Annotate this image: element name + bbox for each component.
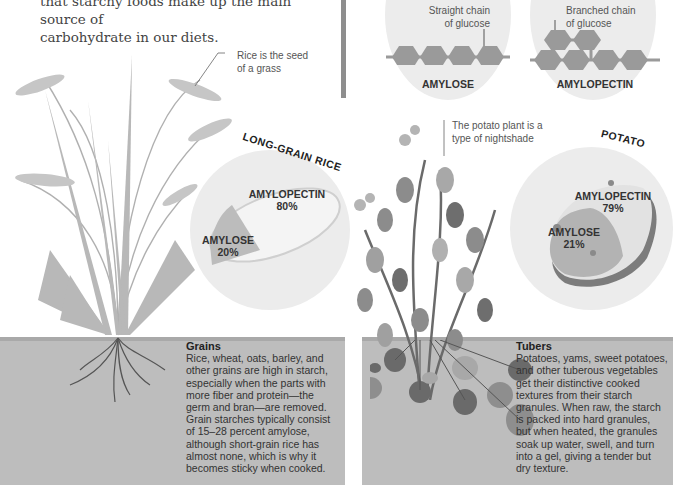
- tubers-heading: Tubers: [516, 340, 673, 352]
- rice-callout: Rice is the seed of a grass: [237, 50, 308, 75]
- amylopectin-chain-diagram: [530, 20, 660, 70]
- tubers-description: Tubers Potatoes, yams, sweet potatoes, a…: [516, 340, 673, 474]
- section-divider: [341, 0, 346, 98]
- amylose-chain-diagram: [386, 25, 510, 65]
- potato-tubers-illustration: [370, 340, 540, 455]
- rice-amylopectin-label: AMYLOPECTIN 80%: [242, 188, 332, 212]
- rice-amylose-label: AMYLOSE 20%: [200, 234, 256, 258]
- grains-description: Grains Rice, wheat, oats, barley, and ot…: [186, 340, 346, 474]
- amylose-label: AMYLOSE: [410, 78, 486, 90]
- rice-callout-line: [190, 50, 230, 90]
- grains-heading: Grains: [186, 340, 346, 352]
- amylopectin-label: AMYLOPECTIN: [550, 78, 640, 90]
- potato-title: POTATO: [600, 127, 647, 150]
- rice-grain-pie: [200, 170, 345, 280]
- potato-amylopectin-label: AMYLOPECTIN 79%: [568, 190, 658, 214]
- intro-line-1: that starchy foods make up the main sour…: [40, 0, 340, 28]
- potato-callout: The potato plant is a type of nightshade: [452, 120, 543, 145]
- potato-callout-line: [440, 118, 450, 158]
- potato-amylose-label: AMYLOSE 21%: [546, 226, 602, 250]
